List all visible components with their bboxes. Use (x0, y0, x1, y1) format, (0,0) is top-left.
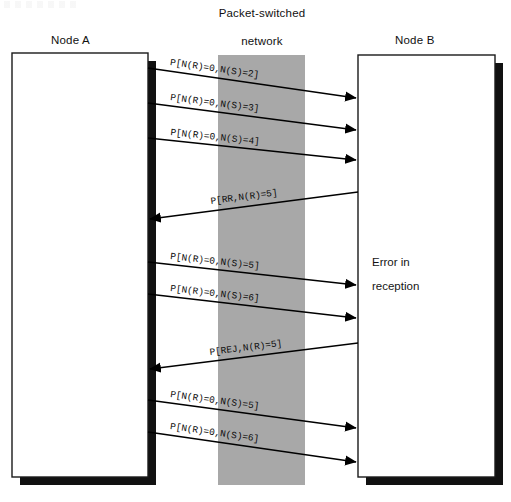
diagram-canvas: Node A Packet-switched network Node B P[… (0, 0, 511, 502)
network-band (218, 55, 305, 485)
node-b-title: Node B (395, 34, 435, 46)
network-title-line2: network (203, 35, 321, 47)
network-title-line1: Packet-switched (203, 7, 321, 19)
error-annotation-line2: reception (372, 276, 419, 297)
node-a-box (12, 53, 148, 477)
node-a-title: Node A (51, 34, 90, 46)
error-annotation-line1: Error in (372, 252, 410, 273)
